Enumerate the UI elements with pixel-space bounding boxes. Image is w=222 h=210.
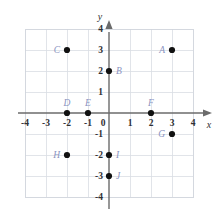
x-tick-label: -1 xyxy=(84,118,92,128)
axes xyxy=(18,20,212,209)
x-tick-label: -2 xyxy=(63,118,71,128)
x-tick-label: -4 xyxy=(21,118,29,128)
x-tick-label: 4 xyxy=(191,118,196,128)
data-point xyxy=(148,110,154,116)
point-label-c: C xyxy=(54,45,61,55)
y-axis-arrowhead xyxy=(105,20,112,29)
point-label-a: A xyxy=(158,45,165,55)
x-tick-label: -3 xyxy=(42,118,50,128)
data-point xyxy=(106,173,112,179)
coordinate-plane-figure: -4-3-2-1012344321-1-2-3-4 xy ABCDEFGHIJ xyxy=(0,0,222,210)
x-tick-label: 3 xyxy=(170,118,175,128)
data-point xyxy=(106,152,112,158)
x-axis-arrowhead xyxy=(203,109,212,116)
point-label-d: D xyxy=(63,98,71,108)
y-tick-label: 2 xyxy=(98,66,103,76)
data-point xyxy=(106,68,112,74)
y-tick-label: 4 xyxy=(98,24,103,34)
data-point xyxy=(64,47,70,53)
y-tick-label: -1 xyxy=(95,129,103,139)
y-tick-label: -3 xyxy=(95,171,103,181)
x-tick-label: 2 xyxy=(149,118,154,128)
data-point xyxy=(85,110,91,116)
coordinate-plane-svg: -4-3-2-1012344321-1-2-3-4 xy ABCDEFGHIJ xyxy=(0,0,222,210)
data-point xyxy=(169,47,175,53)
data-point xyxy=(64,152,70,158)
x-tick-label: 1 xyxy=(128,118,133,128)
data-point xyxy=(64,110,70,116)
y-tick-label: 1 xyxy=(98,87,103,97)
data-point xyxy=(169,131,175,137)
point-label-f: F xyxy=(147,98,154,108)
x-axis-label: x xyxy=(206,119,212,130)
point-label-h: H xyxy=(52,150,61,160)
point-label-g: G xyxy=(158,129,165,139)
point-label-b: B xyxy=(116,66,122,76)
y-tick-label: -4 xyxy=(95,192,103,202)
point-label-e: E xyxy=(84,98,91,108)
y-axis-label: y xyxy=(97,11,103,22)
y-tick-label: 3 xyxy=(98,45,103,55)
x-tick-label: 0 xyxy=(101,118,106,128)
y-tick-label: -2 xyxy=(95,150,103,160)
